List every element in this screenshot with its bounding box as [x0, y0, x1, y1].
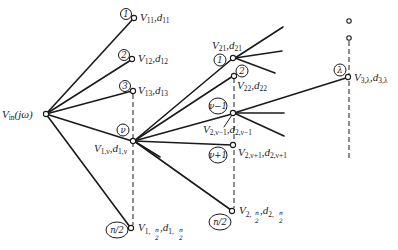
badge-n13: 3: [120, 81, 131, 92]
badge-n22: 2: [236, 65, 248, 77]
tree-diagram: 1 2 3 ν n/2 1 2 ν−1 ν+1 n/2 λ Vin(: [0, 0, 398, 250]
badge-n2vp1-text: ν+1: [209, 150, 227, 160]
badge-n1n2: n/2: [106, 222, 128, 238]
node-n13[interactable]: [130, 88, 135, 93]
badge-n2vm1: ν−1: [209, 98, 227, 114]
svg-text:2: 2: [178, 234, 183, 241]
badge-n2vp1: ν+1: [209, 147, 227, 163]
fan-n21-b: [235, 51, 282, 58]
label-n12: V12,d12: [138, 52, 168, 66]
svg-text:n: n: [279, 209, 283, 216]
node-n3l[interactable]: [345, 74, 350, 79]
badge-n13-text: 3: [122, 81, 127, 91]
label-n13: V13,d13: [138, 84, 168, 98]
node-n21[interactable]: [230, 55, 235, 60]
edge-vin-n13: [46, 91, 132, 114]
badge-n1v: ν: [117, 124, 129, 136]
node-n3-dot-upper: [347, 19, 351, 23]
badge-n22-text: 2: [238, 66, 244, 76]
stage1-edges: [46, 19, 133, 227]
label-n21: V21,d21: [212, 39, 242, 53]
node-n1n2[interactable]: [128, 225, 133, 230]
label-n11: V11,d11: [140, 11, 170, 25]
svg-text:V1,: V1,: [138, 221, 150, 236]
label-vin: Vin(jω): [2, 108, 33, 122]
label-n3l: V3,λ,d3,λ: [354, 71, 388, 85]
svg-text:,d2,: ,d2,: [260, 204, 274, 219]
badge-n2n2: n/2: [209, 214, 231, 230]
svg-text:n: n: [179, 226, 183, 233]
node-n2n2[interactable]: [229, 208, 234, 213]
svg-text:,d1,: ,d1,: [160, 221, 174, 236]
label-n2n2: V2, n 2 ,d2, n 2: [239, 204, 283, 224]
badge-n21-text: 1: [217, 55, 222, 65]
badge-n1v-text: ν: [120, 125, 125, 135]
badge-n2n2-text: n/2: [213, 217, 227, 227]
node-vin[interactable]: [43, 111, 48, 116]
label-n2vp1: V2,ν+1,d2,ν+1: [238, 146, 287, 160]
badge-n12: 2: [119, 50, 130, 61]
svg-text:2: 2: [154, 234, 159, 241]
svg-text:2: 2: [278, 217, 283, 224]
badge-n3l-text: λ: [336, 65, 342, 75]
badge-n11: 1: [121, 9, 132, 20]
node-n3-dot-lower: [347, 36, 351, 40]
edge-n1v-extra: [134, 141, 160, 157]
label-n1n2: V1, n 2 ,d1, n 2: [138, 221, 183, 241]
node-n22[interactable]: [231, 73, 236, 78]
svg-text:n: n: [155, 226, 159, 233]
svg-text:2: 2: [254, 217, 259, 224]
badge-n11-text: 1: [123, 9, 128, 19]
badge-n2vm1-text: ν−1: [209, 101, 227, 111]
node-n2vm1[interactable]: [230, 110, 235, 115]
svg-text:n: n: [255, 209, 259, 216]
label-n2vm1: V2,ν−1,d2,ν−1: [203, 123, 252, 137]
badge-n12-text: 2: [120, 50, 126, 60]
label-n1v: V1,ν,d1,ν: [94, 142, 128, 156]
node-n1v[interactable]: [130, 138, 135, 143]
badge-n3l: λ: [334, 64, 346, 76]
node-n11[interactable]: [131, 15, 136, 20]
fan-n21-a: [235, 27, 283, 58]
label-n22: V22,d22: [237, 79, 267, 93]
badge-n21: 1: [214, 54, 226, 66]
badge-n1n2-text: n/2: [110, 225, 124, 235]
node-n2vp1[interactable]: [230, 142, 235, 147]
node-n12[interactable]: [129, 56, 134, 61]
edge-n1v-n2vp1: [134, 141, 232, 145]
svg-text:V2,: V2,: [239, 204, 251, 219]
